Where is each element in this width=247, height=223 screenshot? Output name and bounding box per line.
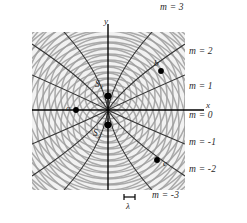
- order-label-m-minus-3: m = -3: [152, 191, 179, 201]
- y-axis-label: y: [104, 17, 108, 26]
- source-label-s1-sub: 1: [100, 83, 103, 90]
- point-label-a: a: [66, 104, 71, 113]
- source-label-s2-sub: 2: [98, 132, 101, 139]
- point-dot-a: [73, 107, 79, 113]
- order-label-m-2: m = 2: [189, 47, 213, 57]
- order-label-m-1: m = 1: [189, 82, 213, 92]
- point-dot-c: [154, 157, 160, 163]
- order-label-m-3: m = 3: [160, 3, 184, 13]
- source-label-s2: S2: [93, 129, 101, 140]
- source-dot-s1: [105, 93, 112, 100]
- point-dot-b: [158, 68, 164, 74]
- x-axis-label: x: [206, 101, 210, 110]
- order-label-m-minus-1: m = -1: [189, 138, 216, 148]
- source-dot-s2: [105, 122, 112, 129]
- order-label-m-minus-2: m = -2: [189, 165, 216, 175]
- point-label-c: c: [163, 159, 167, 168]
- wavelength-scale-bar: [124, 194, 135, 200]
- point-label-b: b: [154, 59, 159, 68]
- interference-figure: y x m = 3 m = 2 m = 1 m = 0 m = -1 m = -…: [0, 0, 247, 223]
- order-label-m-0: m = 0: [189, 111, 213, 121]
- source-label-s1: S1: [95, 80, 103, 91]
- wavelength-label: λ: [126, 202, 130, 211]
